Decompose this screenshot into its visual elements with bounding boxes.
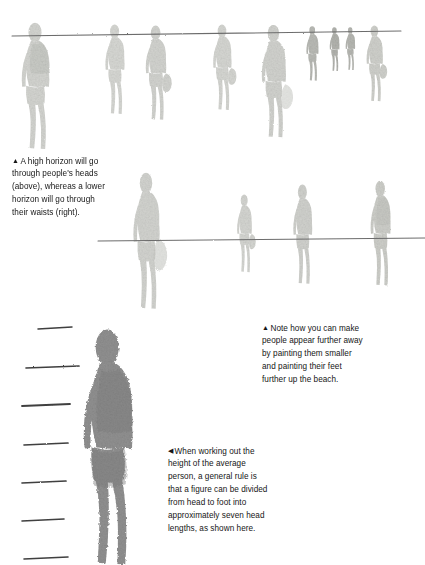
caption-line: approximately seven head bbox=[168, 510, 320, 523]
middle-scene-figures bbox=[133, 173, 390, 309]
head-length-ticks bbox=[22, 327, 79, 559]
caption-text: A high horizon will go bbox=[20, 157, 98, 166]
tick-3 bbox=[22, 404, 70, 406]
caption-line: by painting them smaller bbox=[262, 348, 414, 361]
caption-line: through people's heads bbox=[12, 168, 152, 181]
triangle-up-icon: ▲ bbox=[262, 324, 269, 331]
caption-line: ▲Note how you can make bbox=[262, 322, 414, 335]
horizon-line-low bbox=[98, 238, 425, 241]
caption-line: ◀When working out the bbox=[168, 445, 320, 458]
tick-5 bbox=[22, 481, 66, 483]
tick-2 bbox=[26, 366, 79, 368]
tick-1 bbox=[38, 327, 72, 329]
caption-text: Note how you can make bbox=[270, 324, 359, 333]
caption-line: horizon will go through bbox=[12, 194, 152, 207]
caption-line: further up the beach. bbox=[262, 374, 414, 387]
triangle-left-icon: ◀ bbox=[168, 447, 173, 454]
caption-line: person, a general rule is bbox=[168, 471, 320, 484]
caption-text: When working out the bbox=[175, 447, 255, 456]
caption-line: their waists (right). bbox=[12, 207, 152, 220]
caption-line: that a figure can be divided bbox=[168, 484, 320, 497]
tick-6 bbox=[22, 519, 64, 521]
caption-line: people appear further away bbox=[262, 335, 414, 348]
caption-line: from head to foot into bbox=[168, 497, 320, 510]
triangle-up-icon: ▲ bbox=[12, 157, 19, 164]
caption-distance: ▲Note how you can make people appear fur… bbox=[262, 322, 414, 387]
caption-head-lengths: ◀When working out the height of the aver… bbox=[168, 445, 320, 535]
bottom-figure bbox=[84, 329, 133, 564]
top-scene-figures bbox=[22, 23, 387, 149]
caption-line: lengths, as shown here. bbox=[168, 523, 320, 536]
illustration-page: ▲A high horizon will go through people's… bbox=[0, 0, 425, 565]
caption-line: height of the average bbox=[168, 458, 320, 471]
caption-line: and painting their feet bbox=[262, 361, 414, 374]
horizon-line-high bbox=[12, 31, 401, 36]
tick-4 bbox=[24, 443, 68, 445]
caption-line: ▲A high horizon will go bbox=[12, 155, 152, 168]
caption-line: (above), whereas a lower bbox=[12, 181, 152, 194]
caption-high-horizon: ▲A high horizon will go through people's… bbox=[12, 155, 152, 220]
tick-7 bbox=[24, 557, 68, 559]
